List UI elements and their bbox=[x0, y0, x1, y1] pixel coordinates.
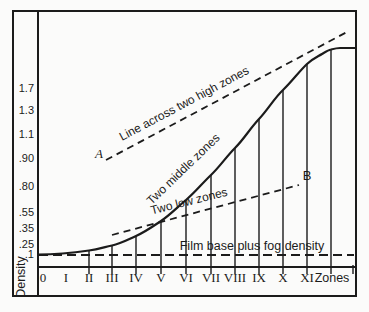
point-a-label: A bbox=[94, 146, 103, 161]
plot-shapes bbox=[13, 11, 356, 296]
y-axis-tick-labels: 1.7 1.3 1.1 .90 .80 .55 .35 .25 .1 bbox=[19, 82, 34, 260]
y-tick-.90: .90 bbox=[19, 152, 34, 164]
two-high-zones-line bbox=[106, 32, 347, 160]
annotation-film-base: Film base plus fog density bbox=[180, 239, 325, 253]
y-tick-1.7: 1.7 bbox=[19, 82, 34, 94]
point-b-label: B bbox=[303, 168, 312, 183]
characteristic-curve-figure: 1.7 1.3 1.1 .90 .80 .55 .35 .25 .1 Densi… bbox=[0, 0, 369, 312]
zone-VIII: VIII bbox=[224, 270, 246, 285]
x-axis-title: Zones bbox=[315, 271, 350, 285]
zone-IV: IV bbox=[129, 270, 143, 285]
zone-III: III bbox=[106, 270, 119, 285]
annotation-high-zones-line: Line across two high zones bbox=[117, 63, 251, 143]
zone-V: V bbox=[156, 270, 166, 285]
x-axis-tick-labels: 0 I II III IV V VI VII VIII IX X XI bbox=[40, 270, 314, 285]
zone-II: II bbox=[85, 270, 94, 285]
y-tick-.35: .35 bbox=[19, 222, 34, 234]
zone-XI: XI bbox=[300, 270, 314, 285]
y-tick-.55: .55 bbox=[19, 206, 34, 218]
zone-VII: VII bbox=[202, 270, 220, 285]
y-tick-1.3: 1.3 bbox=[19, 104, 34, 116]
zone-IX: IX bbox=[252, 270, 266, 285]
zone-VI: VI bbox=[179, 270, 193, 285]
zone-I: I bbox=[64, 270, 68, 285]
y-tick-.80: .80 bbox=[19, 180, 34, 192]
zone-0: 0 bbox=[40, 270, 47, 285]
y-axis-title: Density bbox=[14, 255, 28, 297]
y-tick-1.1: 1.1 bbox=[19, 128, 34, 140]
zone-X: X bbox=[278, 270, 288, 285]
